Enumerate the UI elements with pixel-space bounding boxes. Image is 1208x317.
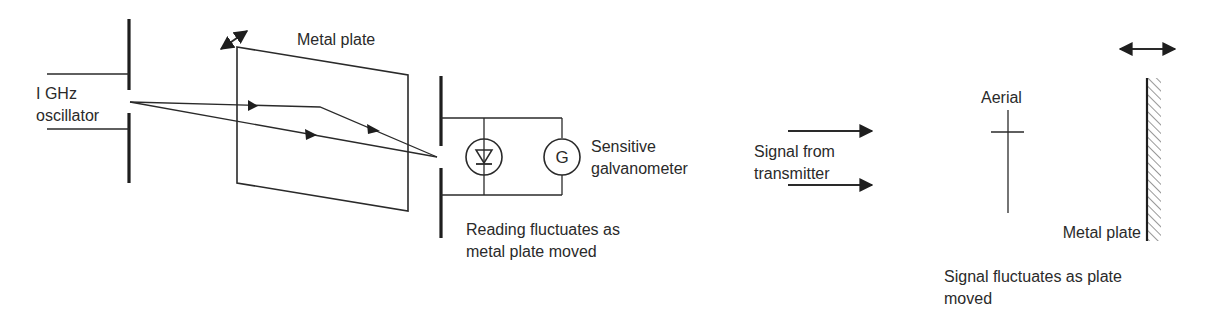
- oscillator-label-line1: I GHz: [36, 85, 77, 102]
- ray-arrow-icon: [248, 100, 258, 111]
- signal-label-line1: Signal from: [754, 143, 835, 160]
- metal-plate-label: Metal plate: [297, 31, 375, 48]
- right-caption-line2: moved: [944, 290, 992, 307]
- oscillator-label-line2: oscillator: [36, 107, 100, 124]
- galvanometer-icon: G: [544, 139, 580, 175]
- left-caption-line2: metal plate moved: [466, 243, 597, 260]
- aerial-label: Aerial: [981, 89, 1022, 106]
- left-caption-line1: Reading fluctuates as: [466, 221, 620, 238]
- signal-label-line2: transmitter: [754, 165, 830, 182]
- double-arrow-icon: [221, 31, 247, 49]
- aerial-icon: [991, 110, 1024, 213]
- right-plate-label: Metal plate: [1063, 224, 1141, 241]
- hatched-plate-icon: [1147, 78, 1161, 241]
- galvanometer-symbol: G: [555, 148, 568, 167]
- galvanometer-label-line2: galvanometer: [591, 160, 689, 177]
- galvanometer-label-line1: Sensitive: [591, 138, 656, 155]
- right-caption-line1: Signal fluctuates as plate: [944, 268, 1122, 285]
- metal-plate: [237, 47, 408, 211]
- ray-paths: [130, 100, 437, 157]
- interference-diagram: I GHz oscillator Metal plate G Sensitive…: [0, 0, 1208, 317]
- ray-arrow-icon: [305, 129, 317, 140]
